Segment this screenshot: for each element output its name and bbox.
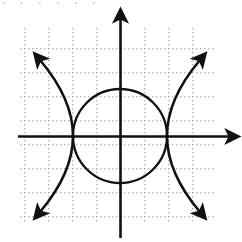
graph-figure: . . . . . . [0, 0, 242, 242]
coordinate-plane [0, 0, 242, 242]
